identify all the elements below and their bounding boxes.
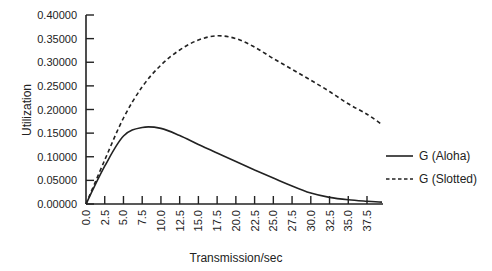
x-tick-label: 25.0 [267,210,279,231]
series-line-aloha [86,127,382,204]
x-tick-label: 35.0 [342,210,354,231]
x-axis-ticks: 0.02.55.07.510.012.515.017.520.022.525.0… [80,196,373,231]
x-tick-label: 5.0 [117,210,129,225]
x-tick-label: 15.0 [192,210,204,231]
x-tick-label: 32.5 [324,210,336,231]
y-tick-label: 0.35000 [37,33,77,45]
y-tick-label: 0.20000 [37,104,77,116]
y-tick-label: 0.00000 [37,198,77,210]
x-tick-label: 12.5 [174,210,186,231]
y-tick-label: 0.10000 [37,151,77,163]
y-tick-label: 0.05000 [37,174,77,186]
axes [86,15,383,204]
x-tick-label: 37.5 [361,210,373,231]
x-tick-label: 22.5 [249,210,261,231]
y-tick-label: 0.40000 [37,9,77,21]
x-axis-title: Transmission/sec [190,251,283,265]
y-axis-title: Utilization [20,84,34,136]
x-tick-label: 17.5 [211,210,223,231]
series-line-slotted [86,36,382,204]
y-tick-label: 0.25000 [37,80,77,92]
x-tick-label: 27.5 [286,210,298,231]
x-tick-label: 0.0 [80,210,92,225]
series-lines [86,36,382,204]
legend: G (Aloha)G (Slotted) [386,149,477,186]
x-tick-label: 2.5 [99,210,111,225]
y-tick-label: 0.30000 [37,56,77,68]
y-tick-label: 0.15000 [37,127,77,139]
legend-label-slotted: G (Slotted) [419,172,477,186]
x-tick-label: 7.5 [136,210,148,225]
x-tick-label: 20.0 [230,210,242,231]
x-tick-label: 10.0 [155,210,167,231]
utilization-chart: 0.000000.050000.100000.150000.200000.250… [0,0,492,271]
x-tick-label: 30.0 [305,210,317,231]
legend-label-aloha: G (Aloha) [419,149,470,163]
